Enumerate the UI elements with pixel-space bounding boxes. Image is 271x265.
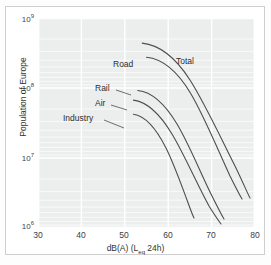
label-air: Air xyxy=(95,98,105,108)
label-leader-lines xyxy=(104,90,131,128)
leader-line-air xyxy=(111,105,127,110)
x-tick-70: 70 xyxy=(199,230,223,240)
x-tick-80: 80 xyxy=(243,230,267,240)
leader-line-rail xyxy=(116,90,131,95)
x-tick-50: 50 xyxy=(112,230,136,240)
curve-total xyxy=(142,43,250,198)
x-tick-40: 40 xyxy=(69,230,93,240)
label-road: Road xyxy=(113,59,133,69)
data-curves-layer xyxy=(38,18,255,228)
label-total: Total xyxy=(176,56,194,66)
y-tick-1e9: 109 xyxy=(4,15,34,24)
y-axis-title: Population of Europe xyxy=(18,27,28,167)
x-axis-title-main: dB(A) (L xyxy=(107,243,139,253)
y-tick-1e9-exponent: 9 xyxy=(31,13,34,19)
curve-rail xyxy=(138,91,224,220)
label-rail: Rail xyxy=(95,83,110,93)
curve-industry xyxy=(133,114,194,218)
y-tick-1e9-mantissa: 10 xyxy=(22,15,31,24)
x-axis-title: dB(A) (Leq 24h) xyxy=(0,243,271,253)
figure-panel: 109 108 107 106 Population of Europe 30 … xyxy=(0,0,271,265)
curve-air xyxy=(133,100,221,224)
x-tick-30: 30 xyxy=(26,230,50,240)
y-tick-1e7-exponent: 7 xyxy=(31,152,34,158)
label-industry: Industry xyxy=(63,113,93,123)
x-tick-60: 60 xyxy=(156,230,180,240)
x-axis-title-sub: eq xyxy=(138,249,145,255)
x-axis-title-tail: 24h) xyxy=(145,243,164,253)
y-tick-1e8-exponent: 8 xyxy=(31,82,34,88)
plot-area: Road Total Rail Air Industry xyxy=(38,18,255,228)
y-tick-1e6-exponent: 6 xyxy=(31,220,34,226)
leader-line-industry xyxy=(104,120,124,128)
